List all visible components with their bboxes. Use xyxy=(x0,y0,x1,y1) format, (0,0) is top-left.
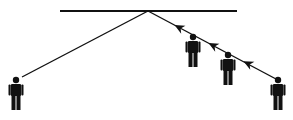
arrowhead-icon xyxy=(206,39,219,52)
diagram-canvas xyxy=(0,0,293,120)
reflection-diagram xyxy=(0,0,293,120)
arrows-group xyxy=(172,21,254,70)
person-right-3-icon xyxy=(271,77,286,110)
arrowhead-icon xyxy=(241,57,254,70)
person-left-icon xyxy=(9,77,24,110)
person-right-1-icon xyxy=(186,34,201,67)
lines-group xyxy=(22,11,276,79)
left-ray xyxy=(22,11,148,77)
people-group xyxy=(9,34,286,110)
arrowhead-icon xyxy=(172,21,185,34)
